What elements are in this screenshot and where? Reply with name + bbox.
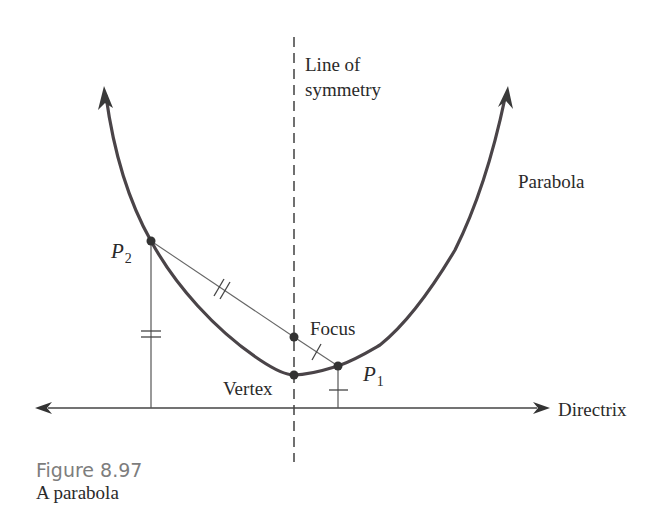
parabola-right-arrow-icon (498, 86, 513, 109)
vertex-label: Vertex (223, 378, 273, 399)
point-p1 (334, 362, 343, 371)
parabola-curve (106, 96, 505, 375)
point-p2 (147, 237, 156, 246)
focus-to-p1-segment (294, 337, 338, 366)
p2-focus-tick-a (214, 279, 224, 296)
focus-label: Focus (310, 318, 355, 339)
p1-label: P1 (362, 362, 384, 389)
p2-label: P2 (110, 239, 132, 266)
line-of-symmetry-label-line2: symmetry (305, 79, 381, 100)
focus-p1-tick (312, 344, 321, 360)
line-of-symmetry-label-line1: Line of (305, 54, 361, 75)
p2-to-focus-segment (151, 241, 294, 337)
parabola-left-arrow-icon (98, 86, 113, 110)
parabola-label: Parabola (518, 171, 585, 192)
directrix-label: Directrix (558, 399, 627, 420)
p2-focus-tick-b (220, 282, 230, 299)
point-focus (290, 333, 299, 342)
parabola-diagram: Line of symmetry Parabola Focus Vertex D… (0, 0, 671, 508)
figure-number: Figure 8.97 (36, 459, 142, 481)
point-vertex (290, 371, 299, 380)
figure-caption: A parabola (36, 482, 119, 503)
